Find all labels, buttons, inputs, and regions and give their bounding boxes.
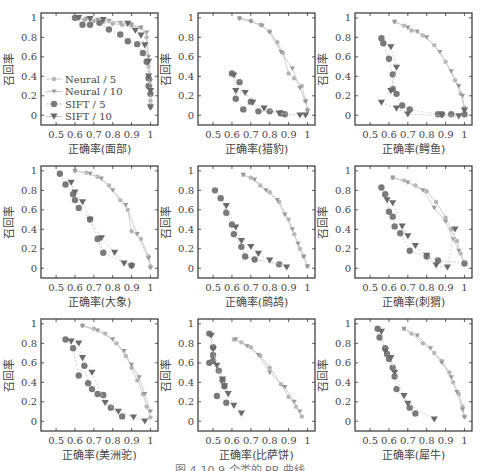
svg-text:0.4: 0.4: [335, 377, 351, 388]
svg-text:1: 1: [461, 435, 467, 446]
pr-panel-9: 0.50.60.70.80.9100.20.40.60.81召回率正确率(犀牛): [0, 0, 160, 155]
svg-text:1: 1: [345, 318, 351, 329]
svg-text:0: 0: [345, 416, 351, 427]
svg-text:0.7: 0.7: [400, 435, 416, 446]
series-neural5: [402, 327, 467, 419]
svg-text:召回率: 召回率: [316, 359, 330, 392]
figure-caption: 图 4-10 9 个类的 PR 曲线: [0, 463, 480, 471]
svg-text:0.5: 0.5: [362, 435, 378, 446]
svg-text:0.2: 0.2: [335, 396, 351, 407]
svg-text:0.8: 0.8: [419, 435, 435, 446]
svg-text:0.9: 0.9: [438, 435, 454, 446]
svg-text:0.8: 0.8: [335, 338, 351, 349]
svg-text:0.6: 0.6: [335, 357, 351, 368]
pr-chart-9: 0.50.60.70.80.9100.20.40.60.81召回率正确率(犀牛): [0, 0, 480, 471]
svg-text:0.6: 0.6: [381, 435, 397, 446]
svg-text:正确率(犀牛): 正确率(犀牛): [382, 448, 446, 462]
